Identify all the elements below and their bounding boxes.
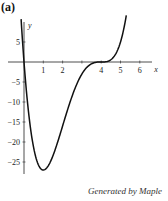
y-tick-label: −5 [11, 78, 20, 87]
x-axis-label: x [153, 65, 158, 74]
y-tick-label: −10 [7, 98, 20, 107]
function-curve [21, 15, 126, 170]
y-tick-label: −25 [7, 158, 20, 167]
function-plot: 12456x5−5−10−15−20−25y [0, 0, 168, 201]
x-tick-label: 5 [119, 66, 123, 75]
y-tick-label: 5 [16, 38, 20, 47]
generated-by-maple-caption: Generated by Maple [88, 186, 162, 196]
y-axis-label: y [27, 21, 32, 30]
y-tick-label: −15 [7, 118, 20, 127]
x-tick-label: 2 [61, 66, 65, 75]
x-tick-label: 4 [99, 66, 103, 75]
y-tick-label: −20 [7, 138, 20, 147]
x-tick-label: 1 [41, 66, 45, 75]
x-tick-label: 6 [138, 66, 142, 75]
